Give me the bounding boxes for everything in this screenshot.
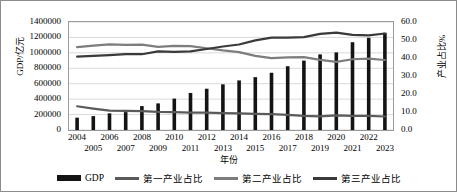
bar-gdp <box>302 61 306 130</box>
bar-gdp <box>173 99 177 130</box>
y-right-tick: 50.0 <box>401 35 417 44</box>
x-tick: 2011 <box>174 143 208 153</box>
x-tick: 2019 <box>303 143 337 153</box>
bar-gdp <box>205 89 209 130</box>
bar-gdp <box>140 106 144 130</box>
x-tick: 2023 <box>368 143 402 153</box>
legend-item[interactable]: GDP <box>57 173 104 183</box>
x-tick: 2020 <box>319 132 353 142</box>
y-left-tick: 1400000 <box>30 17 62 26</box>
bar-gdp <box>221 84 225 130</box>
bar-gdp <box>156 103 160 130</box>
legend-label: 第二产业占比 <box>242 171 302 185</box>
y-left-tick: 1000000 <box>30 48 62 57</box>
bar-gdp <box>108 113 112 130</box>
plot-area <box>68 21 394 131</box>
x-tick: 2015 <box>238 143 272 153</box>
legend-line-swatch-icon <box>313 177 337 180</box>
legend-item[interactable]: 第一产业占比 <box>115 171 203 185</box>
legend-label: 第一产业占比 <box>143 171 203 185</box>
y-right-tick: 40.0 <box>401 53 417 62</box>
y-left-tick: 600000 <box>34 79 61 88</box>
gdp-industry-structure-chart: GDP/亿元 产业占比% 年份 020000040000060000080000… <box>0 0 458 193</box>
chart-legend: GDP第一产业占比第二产业占比第三产业占比 <box>0 171 458 185</box>
legend-label: 第三产业占比 <box>341 171 401 185</box>
y-right-tick: 20.0 <box>401 89 417 98</box>
x-axis-tick-labels: 2004200520062007200820092010201120122013… <box>0 131 458 155</box>
x-tick: 2006 <box>93 132 127 142</box>
x-tick: 2012 <box>190 132 224 142</box>
legend-line-swatch-icon <box>115 177 139 180</box>
bar-gdp <box>124 112 128 130</box>
bar-gdp <box>335 52 339 130</box>
bar-gdp <box>286 66 290 130</box>
plot-svg <box>69 22 393 130</box>
x-tick: 2013 <box>206 143 240 153</box>
bar-gdp <box>318 54 322 130</box>
y-right-tick: 60.0 <box>401 17 417 26</box>
legend-label: GDP <box>85 173 104 183</box>
bar-gdp <box>270 73 274 130</box>
bar-gdp <box>75 118 79 130</box>
legend-item[interactable]: 第三产业占比 <box>313 171 401 185</box>
y-left-tick: 1200000 <box>30 32 62 41</box>
legend-item[interactable]: 第二产业占比 <box>214 171 302 185</box>
legend-bar-swatch-icon <box>57 175 81 181</box>
x-tick: 2010 <box>157 132 191 142</box>
x-tick: 2022 <box>352 132 386 142</box>
x-tick: 2014 <box>222 132 256 142</box>
x-tick: 2004 <box>60 132 94 142</box>
x-tick: 2007 <box>109 143 143 153</box>
x-tick: 2009 <box>141 143 175 153</box>
x-tick: 2005 <box>76 143 110 153</box>
y-axis-right-tick-labels: 0.010.020.030.040.050.060.0 <box>398 0 444 193</box>
y-left-tick: 400000 <box>34 94 61 103</box>
x-tick: 2016 <box>255 132 289 142</box>
line-series <box>77 106 385 116</box>
x-tick: 2021 <box>336 143 370 153</box>
bar-gdp <box>92 116 96 130</box>
legend-line-swatch-icon <box>214 177 238 180</box>
bar-gdp <box>254 77 258 130</box>
x-tick: 2017 <box>271 143 305 153</box>
y-left-tick: 800000 <box>34 63 61 72</box>
bar-gdp <box>237 80 241 130</box>
x-tick: 2018 <box>287 132 321 142</box>
y-left-tick: 200000 <box>34 110 61 119</box>
y-right-tick: 30.0 <box>401 71 417 80</box>
y-right-tick: 10.0 <box>401 107 417 116</box>
y-axis-left-tick-labels: 0200000400000600000800000100000012000001… <box>18 0 64 193</box>
x-tick: 2008 <box>125 132 159 142</box>
